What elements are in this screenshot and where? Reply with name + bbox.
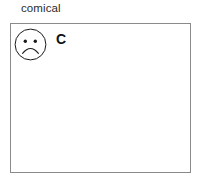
- sad-face-icon[interactable]: [14, 28, 47, 61]
- letter-label: C: [56, 31, 66, 47]
- drawing-panel[interactable]: C: [10, 23, 191, 173]
- canvas-root: comical C: [0, 0, 199, 181]
- page-title: comical: [21, 1, 61, 15]
